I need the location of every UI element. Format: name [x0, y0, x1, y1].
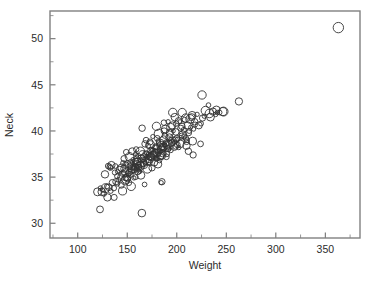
- y-tick-label: 50: [31, 32, 43, 44]
- y-tick-label: 40: [31, 125, 43, 137]
- y-tick-label: 30: [31, 217, 43, 229]
- x-tick-label: 150: [118, 243, 136, 255]
- x-tick-label: 350: [317, 243, 335, 255]
- plot-area-background: [50, 11, 360, 238]
- x-axis-title: Weight: [189, 259, 222, 271]
- scatter-plot-figure: 100150200250300350 3035404550 Weight Nec…: [0, 0, 384, 285]
- x-tick-label: 100: [69, 243, 87, 255]
- x-tick-label: 250: [218, 243, 236, 255]
- x-tick-labels: 100150200250300350: [69, 243, 334, 255]
- y-tick-labels: 3035404550: [31, 32, 43, 229]
- x-tick-label: 200: [168, 243, 186, 255]
- y-tick-label: 35: [31, 171, 43, 183]
- plot-canvas: 100150200250300350 3035404550 Weight Nec…: [0, 0, 384, 285]
- y-tick-label: 45: [31, 79, 43, 91]
- y-axis-title: Neck: [3, 112, 15, 137]
- x-tick-label: 300: [267, 243, 285, 255]
